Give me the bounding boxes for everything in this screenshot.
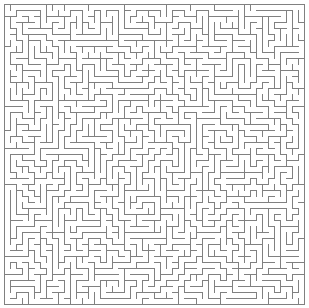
maze-figure xyxy=(0,0,309,308)
maze-canvas xyxy=(0,0,309,308)
